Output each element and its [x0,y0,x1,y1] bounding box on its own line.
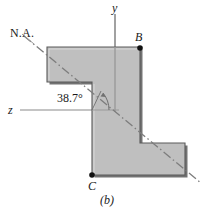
section-shape [47,47,185,175]
figure-container: N.A. y z B C 38.7° (b) [0,0,213,214]
figure-caption: (b) [100,194,114,206]
y-axis-label: y [112,2,117,14]
point-c-marker [89,172,95,178]
point-b-marker [137,45,143,51]
point-b-label: B [135,31,142,43]
point-c-label: C [88,180,96,192]
angle-label: 38.7° [57,92,83,104]
neutral-axis-label: N.A. [10,27,34,39]
z-axis-label: z [8,104,13,116]
